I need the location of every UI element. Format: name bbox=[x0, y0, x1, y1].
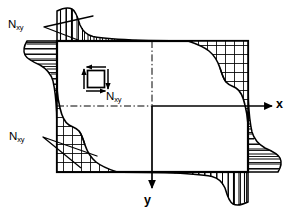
label-nxy-bottom-left: Nxy bbox=[9, 131, 24, 143]
axis-label-y: y bbox=[144, 194, 151, 207]
axis-label-x: x bbox=[276, 98, 283, 111]
diagram-canvas bbox=[0, 0, 291, 215]
shear-flow-diagram: Nxy Nxy Nxy x y bbox=[0, 0, 291, 215]
label-nxy-top-left: Nxy bbox=[8, 19, 23, 31]
shear-stress-element bbox=[84, 67, 108, 91]
distribution-left-edge bbox=[24, 41, 57, 172]
shear-element-square bbox=[88, 71, 105, 88]
label-nxy-top-left-subscript: xy bbox=[16, 23, 23, 32]
label-nxy-center-subscript: xy bbox=[114, 95, 121, 104]
label-nxy-center: Nxy bbox=[106, 91, 121, 103]
label-nxy-bottom-left-subscript: xy bbox=[17, 135, 24, 144]
distribution-top-edge bbox=[57, 8, 248, 41]
